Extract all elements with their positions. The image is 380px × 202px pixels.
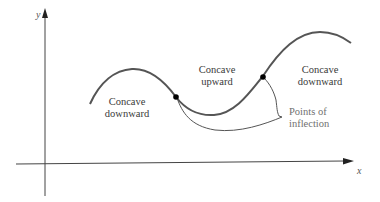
x-axis-label: x: [357, 165, 361, 176]
inflection-point-1: [173, 94, 179, 100]
callout-label-line1: Points of: [289, 106, 329, 118]
inflection-point-2: [260, 74, 266, 80]
callout-label-points-of-inflection: Points of inflection: [289, 106, 329, 130]
region-label-line1: Concave: [192, 64, 242, 76]
region-label-line2: downward: [97, 108, 157, 120]
callout-label-line2: inflection: [289, 118, 329, 130]
callout-line-2: [264, 78, 282, 117]
region-label-concave-upward: Concave upward: [192, 64, 242, 88]
y-axis-arrow-icon: [42, 8, 48, 18]
region-label-line2: upward: [192, 76, 242, 88]
region-label-line1: Concave: [290, 64, 350, 76]
x-axis-arrow-icon: [343, 158, 354, 165]
callout-line-1: [177, 98, 282, 131]
y-axis-label: y: [36, 9, 40, 20]
region-label-line1: Concave: [97, 96, 157, 108]
region-label-concave-downward-right: Concave downward: [290, 64, 350, 88]
region-label-concave-downward-left: Concave downward: [97, 96, 157, 120]
region-label-line2: downward: [290, 76, 350, 88]
x-axis: [16, 161, 344, 164]
diagram-canvas: [0, 0, 380, 202]
